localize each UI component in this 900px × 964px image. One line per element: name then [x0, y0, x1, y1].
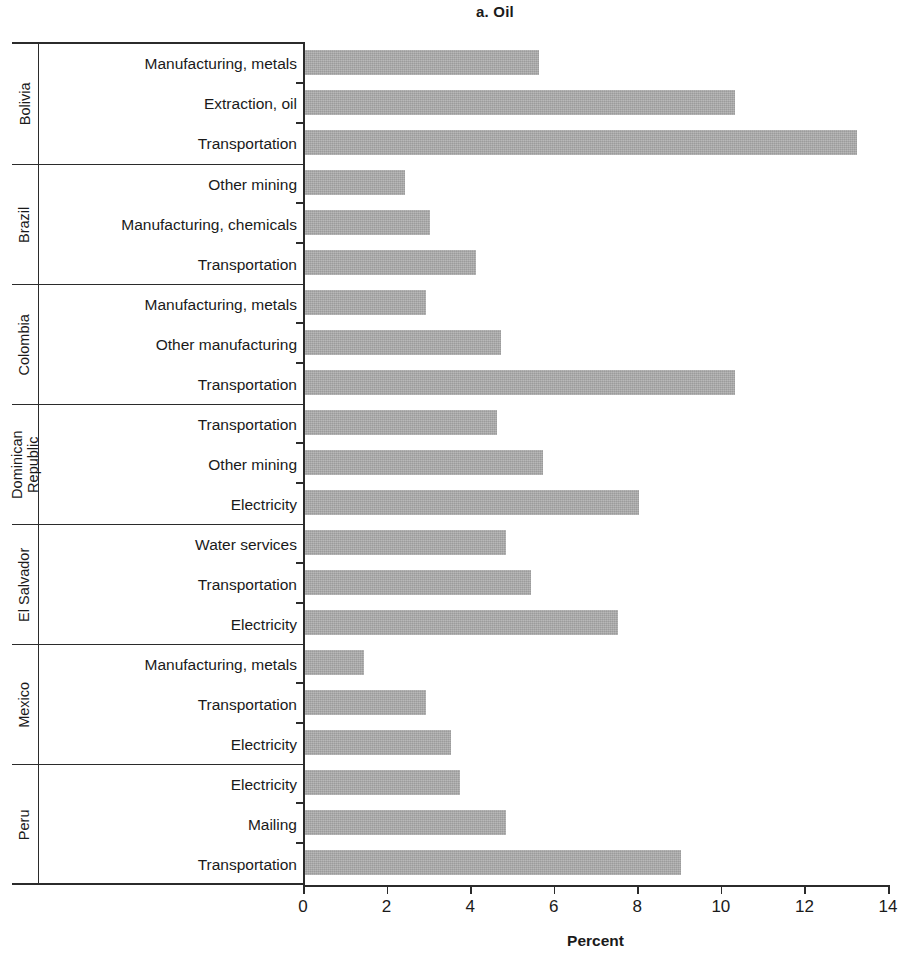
bar	[305, 250, 476, 275]
bar	[305, 410, 497, 435]
country-label-cell: Brazil	[12, 165, 39, 284]
country-group: ColombiaManufacturing, metalsOther manuf…	[12, 284, 303, 404]
country-group: PeruElectricityMailingTransportation	[12, 764, 303, 884]
category-label: Other manufacturing	[39, 325, 303, 365]
category-tick-mark	[296, 82, 303, 84]
category-label: Electricity	[39, 765, 303, 805]
category-label: Transportation	[39, 565, 303, 605]
x-axis-tick	[804, 885, 806, 894]
category-label: Manufacturing, metals	[39, 645, 303, 685]
category-tick-mark	[296, 482, 303, 484]
category-label-column: Manufacturing, metalsOther manufacturing…	[39, 285, 303, 404]
category-tick-mark	[296, 202, 303, 204]
x-axis-tick	[554, 885, 556, 894]
x-axis-tick-label: 2	[382, 897, 391, 917]
bar	[305, 730, 451, 755]
category-tick-mark	[296, 562, 303, 564]
x-axis-tick-label: 8	[633, 897, 642, 917]
x-axis-tick	[637, 885, 639, 894]
category-label: Manufacturing, chemicals	[39, 205, 303, 245]
country-label: Mexico	[17, 682, 33, 728]
chart-title: a. Oil	[0, 3, 900, 20]
country-label-cell: Dominican Republic	[12, 405, 39, 524]
category-label-column: Other miningManufacturing, chemicalsTran…	[39, 165, 303, 284]
bar	[305, 170, 405, 195]
category-label: Manufacturing, metals	[39, 285, 303, 325]
country-label-cell: Bolivia	[12, 44, 39, 164]
category-tick-mark	[296, 722, 303, 724]
category-label-column: Manufacturing, metalsExtraction, oilTran…	[39, 44, 303, 164]
category-label: Electricity	[39, 485, 303, 525]
x-axis-tick	[470, 885, 472, 894]
country-group: Dominican RepublicTransportationOther mi…	[12, 404, 303, 524]
bar	[305, 610, 618, 635]
plot-area	[303, 42, 888, 885]
bar	[305, 810, 506, 835]
category-tick-mark	[296, 602, 303, 604]
bar	[305, 210, 430, 235]
category-tick-mark	[296, 442, 303, 444]
category-label-column: TransportationOther miningElectricity	[39, 405, 303, 524]
country-group: El SalvadorWater servicesTransportationE…	[12, 524, 303, 644]
bar	[305, 50, 539, 75]
country-label-cell: Colombia	[12, 285, 39, 404]
category-label: Transportation	[39, 685, 303, 725]
category-tick-mark	[296, 122, 303, 124]
category-tick-mark	[296, 362, 303, 364]
category-label-column: Manufacturing, metalsTransportationElect…	[39, 645, 303, 764]
category-label-column: Water servicesTransportationElectricity	[39, 525, 303, 644]
bar	[305, 770, 460, 795]
bar	[305, 370, 735, 395]
category-tick-mark	[296, 242, 303, 244]
category-label: Transportation	[39, 124, 303, 164]
x-axis-tick	[303, 885, 305, 894]
x-axis-tick-label: 0	[298, 897, 307, 917]
bar	[305, 330, 501, 355]
category-label: Electricity	[39, 725, 303, 765]
x-axis-tick-label: 10	[711, 897, 730, 917]
country-label: Bolivia	[17, 83, 33, 126]
category-label-block: BoliviaManufacturing, metalsExtraction, …	[12, 42, 303, 885]
category-label: Transportation	[39, 365, 303, 405]
bar	[305, 650, 364, 675]
category-label: Electricity	[39, 605, 303, 645]
x-axis-title: Percent	[303, 932, 888, 950]
category-label: Extraction, oil	[39, 84, 303, 124]
category-label: Manufacturing, metals	[39, 44, 303, 84]
bar	[305, 570, 531, 595]
country-label: Dominican Republic	[9, 430, 40, 499]
country-label: El Salvador	[17, 547, 33, 621]
country-label-cell: Peru	[12, 765, 39, 884]
country-label: Peru	[17, 809, 33, 840]
country-label: Brazil	[17, 206, 33, 242]
x-axis-tick-label: 14	[879, 897, 898, 917]
bar	[305, 450, 543, 475]
country-group: BrazilOther miningManufacturing, chemica…	[12, 164, 303, 284]
category-label: Other mining	[39, 165, 303, 205]
x-axis-line	[303, 885, 888, 887]
country-label: Colombia	[17, 314, 33, 375]
x-axis-tick	[721, 885, 723, 894]
country-group: BoliviaManufacturing, metalsExtraction, …	[12, 44, 303, 164]
chart-plot-frame: BoliviaManufacturing, metalsExtraction, …	[12, 42, 888, 885]
bar	[305, 850, 681, 875]
bar	[305, 290, 426, 315]
bar	[305, 530, 506, 555]
category-tick-mark	[296, 322, 303, 324]
bar	[305, 90, 735, 115]
x-axis-tick	[387, 885, 389, 894]
country-group: MexicoManufacturing, metalsTransportatio…	[12, 644, 303, 764]
country-label-cell: Mexico	[12, 645, 39, 764]
category-tick-mark	[296, 682, 303, 684]
category-label: Transportation	[39, 405, 303, 445]
bar	[305, 130, 857, 155]
bar	[305, 690, 426, 715]
category-label-column: ElectricityMailingTransportation	[39, 765, 303, 884]
bar	[305, 490, 639, 515]
country-label-cell: El Salvador	[12, 525, 39, 644]
category-tick-mark	[296, 802, 303, 804]
category-label: Other mining	[39, 445, 303, 485]
x-axis-tick-label: 12	[795, 897, 814, 917]
category-label: Transportation	[39, 845, 303, 885]
x-axis-tick-label: 4	[465, 897, 474, 917]
